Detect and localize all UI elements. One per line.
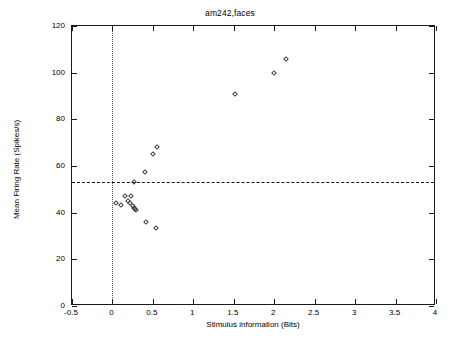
y-axis-title: Mean Firing Rate (Spikes/s) <box>12 90 21 250</box>
x-axis-tick <box>274 299 275 304</box>
x-axis-tick <box>72 299 73 304</box>
scatter-plot-figure: am242,faces -0.500.511.522.533.54 020406… <box>0 0 452 340</box>
x-axis-tick-label: -0.5 <box>64 308 78 317</box>
x-axis-tick-label: 2.5 <box>308 308 319 317</box>
x-axis-tick <box>153 299 154 304</box>
x-axis-tick <box>234 26 235 31</box>
y-axis-tick <box>429 213 434 214</box>
y-axis-tick <box>72 259 77 260</box>
data-point-marker <box>142 169 148 175</box>
y-axis-tick <box>429 73 434 74</box>
y-axis-tick <box>429 26 434 27</box>
x-axis-tick-label: 1 <box>190 308 194 317</box>
data-point-marker <box>154 144 160 150</box>
y-axis-tick <box>72 306 77 307</box>
baseline-firing-rate-reference-line <box>72 182 434 183</box>
data-point-marker <box>131 179 137 185</box>
data-point-marker <box>143 219 149 225</box>
x-axis-tick-label: 4 <box>433 308 437 317</box>
x-axis-tick <box>396 26 397 31</box>
y-axis-tick-label: 80 <box>40 114 65 123</box>
x-axis-tick <box>112 299 113 304</box>
x-axis-tick-label: 1.5 <box>227 308 238 317</box>
x-axis-tick-label: 3 <box>352 308 356 317</box>
page-title: am242,faces <box>0 8 452 18</box>
x-axis-tick-label: 0.5 <box>146 308 157 317</box>
x-axis-tick <box>274 26 275 31</box>
x-axis-tick-label: 0 <box>109 308 113 317</box>
x-axis-tick <box>193 299 194 304</box>
y-axis-tick <box>72 26 77 27</box>
y-axis-tick <box>72 73 77 74</box>
data-point-marker <box>153 225 159 231</box>
x-axis-tick <box>234 299 235 304</box>
x-axis-tick <box>112 26 113 31</box>
x-axis-tick <box>355 26 356 31</box>
zero-information-reference-line <box>112 26 113 304</box>
data-point-marker <box>271 70 277 76</box>
y-axis-tick <box>72 213 77 214</box>
y-axis-tick <box>429 166 434 167</box>
y-axis-tick-label: 20 <box>40 254 65 263</box>
y-axis-tick <box>429 259 434 260</box>
x-axis-tick <box>153 26 154 31</box>
data-point-marker <box>284 56 290 62</box>
x-axis-tick-label: 3.5 <box>389 308 400 317</box>
y-axis-tick-label: 120 <box>40 21 65 30</box>
x-axis-tick <box>193 26 194 31</box>
x-axis-tick <box>436 26 437 31</box>
y-axis-tick-label: 0 <box>40 301 65 310</box>
y-axis-tick <box>429 306 434 307</box>
plot-area <box>71 25 435 305</box>
x-axis-tick-label: 2 <box>271 308 275 317</box>
data-point-marker <box>150 151 156 157</box>
y-axis-tick <box>72 119 77 120</box>
y-axis-tick <box>429 119 434 120</box>
data-point-marker <box>133 207 139 213</box>
x-axis-title: Stimulus information (Bits) <box>71 320 435 329</box>
y-axis-tick-label: 100 <box>40 67 65 76</box>
y-axis-tick <box>72 166 77 167</box>
y-axis-tick-label: 60 <box>40 161 65 170</box>
x-axis-tick <box>315 299 316 304</box>
data-point-marker <box>233 91 239 97</box>
x-axis-tick <box>396 299 397 304</box>
x-axis-tick <box>436 299 437 304</box>
chart-title-text: am242,faces <box>205 8 255 18</box>
y-axis-tick-label: 40 <box>40 207 65 216</box>
x-axis-tick <box>315 26 316 31</box>
x-axis-tick <box>355 299 356 304</box>
